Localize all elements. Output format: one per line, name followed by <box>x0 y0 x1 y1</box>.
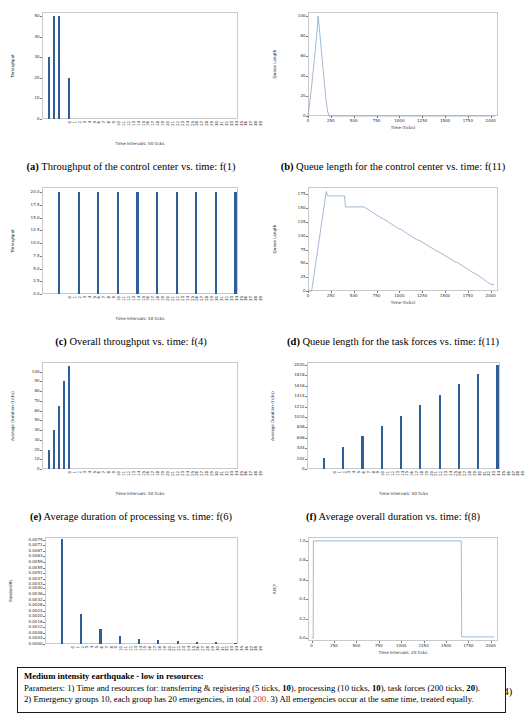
ytick-label: 0.0051 <box>3 571 43 575</box>
ytick-label: 20 <box>266 94 306 98</box>
xtick-label: 1250 <box>411 119 433 123</box>
xtick-label: 250 <box>320 119 342 123</box>
ytick-label: 0.0 <box>0 292 40 296</box>
ytick-mark <box>40 420 42 421</box>
bar <box>234 192 236 294</box>
xtick-mark <box>445 116 446 118</box>
bar <box>496 365 498 469</box>
ytick-mark <box>305 448 307 449</box>
params-line2-total: 200 <box>253 694 266 704</box>
ytick-mark <box>43 556 45 557</box>
bar <box>53 16 55 119</box>
ytick-mark <box>43 551 45 552</box>
bar <box>477 374 479 469</box>
plot-area-b: Queue LengthTime (ticks)0204060801000250… <box>262 4 524 154</box>
ytick-mark <box>43 605 45 606</box>
xtick-label: 1000 <box>390 644 412 648</box>
xtick-label: 0 <box>71 646 75 668</box>
ytick-label: 0.0055 <box>3 566 43 570</box>
ytick-label: 40 <box>266 74 306 78</box>
ytick-label: 17.5 <box>0 203 40 207</box>
xtick-label: 6 <box>97 121 101 143</box>
figure-e: Average Duration (ticks)Time Intervals: … <box>0 350 262 525</box>
ytick-mark <box>40 243 42 244</box>
caption-label: (b) <box>281 161 294 172</box>
ytick-label: 175 <box>266 192 306 196</box>
caption-text: Overall throughput vs. time: f(4) <box>67 336 207 347</box>
xtick-mark <box>399 291 400 293</box>
xtick-label: 1500 <box>434 294 456 298</box>
xtick-label: 0 <box>297 119 319 123</box>
bar <box>323 458 325 469</box>
bar <box>156 192 158 294</box>
xtick-label: 5 <box>93 471 97 493</box>
xtick-label: 750 <box>368 644 390 648</box>
ytick-mark <box>43 600 45 601</box>
caption-text: Throughput of the control center vs. tim… <box>39 161 236 172</box>
xtick-mark <box>401 641 402 643</box>
ytick-mark <box>40 218 42 219</box>
xtick-label: 2000 <box>480 119 502 123</box>
ytick-label: 606 <box>265 436 305 440</box>
ytick-mark <box>305 375 307 376</box>
xtick-label: 1750 <box>457 294 479 298</box>
xtick-label: 0 <box>297 294 319 298</box>
xtick-label: 7 <box>102 296 106 318</box>
ytick-label: 0.4 <box>266 597 306 601</box>
plot-area-h: RECFTime Intervals: 20 ticks0.00.20.40.6… <box>262 529 524 679</box>
bar <box>68 78 70 119</box>
xtick-label: 1 <box>338 471 342 493</box>
axes-frame-f <box>307 362 500 469</box>
ytick-label: 20 <box>0 448 40 452</box>
ytick-mark <box>305 438 307 439</box>
series-path <box>308 16 495 116</box>
ytick-mark <box>40 381 42 382</box>
ytick-label: 10 <box>0 457 40 461</box>
xtick-label: 5 <box>93 296 97 318</box>
bar <box>58 16 60 119</box>
figure-caption-b: (b) Queue length for the control center … <box>262 161 524 173</box>
ytick-mark <box>40 230 42 231</box>
params-line2-end: . 3) All emergencies occur at the same t… <box>266 694 473 704</box>
params-line1-end: ). <box>475 683 480 693</box>
ytick-label: 5.0 <box>0 267 40 271</box>
xtick-label: 7 <box>102 471 106 493</box>
xtick-label: 8 <box>107 471 111 493</box>
series-path <box>308 191 494 291</box>
xtick-label: 1 <box>76 646 80 668</box>
ytick-label: 0.0004 <box>3 636 43 640</box>
xtick-mark <box>379 641 380 643</box>
ytick-mark <box>43 562 45 563</box>
xtick-mark <box>354 291 355 293</box>
figure-b: Queue LengthTime (ticks)0204060801000250… <box>262 0 524 175</box>
ytick-label: 10 <box>0 96 40 100</box>
bar <box>80 614 82 644</box>
axes-b: 0204060801000250500750100012501500175020… <box>308 12 498 116</box>
ytick-mark <box>40 469 42 470</box>
ytick-mark <box>43 622 45 623</box>
xtick-label: 0 <box>333 471 337 493</box>
ytick-label: 25 <box>266 275 306 279</box>
ytick-label: 0.0016 <box>3 620 43 624</box>
xtick-label: 4 <box>88 296 92 318</box>
ytick-label: 1616 <box>265 384 305 388</box>
ytick-mark <box>40 391 42 392</box>
ytick-mark <box>40 401 42 402</box>
figure-caption-d: (d) Queue length for the task forces vs.… <box>262 336 524 348</box>
xtick-label: 3 <box>83 471 87 493</box>
figure-d: Queue LengthTime (ticks)0255075100125150… <box>262 175 524 350</box>
xtick-mark <box>331 291 332 293</box>
ytick-label: 0.0020 <box>3 614 43 618</box>
caption-label: (d) <box>287 336 300 347</box>
axes-a: 0102030405001234567891011121314151617181… <box>42 12 238 119</box>
ytick-label: 7.5 <box>0 254 40 258</box>
ytick-mark <box>40 192 42 193</box>
ytick-label: 0 <box>265 467 305 471</box>
series-path <box>312 541 495 638</box>
axes-frame-a <box>42 12 238 119</box>
xtick-label: 8 <box>110 646 114 668</box>
xtick-label: 0 <box>301 644 323 648</box>
ytick-mark <box>305 427 307 428</box>
xtick-label: 8 <box>372 471 376 493</box>
xtick-label: 750 <box>366 294 388 298</box>
